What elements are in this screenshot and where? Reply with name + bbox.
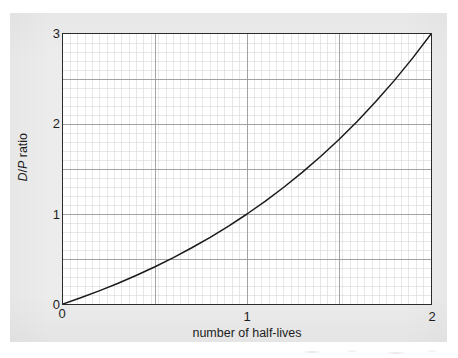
y-axis-title-p: P [16, 161, 30, 169]
plot-area [62, 33, 432, 305]
y-tick-label-1: 1 [38, 208, 60, 221]
figure-root: 3 2 1 0 0 1 2 number of half-lives D/P r… [0, 0, 458, 358]
scan-artifact-speckle [300, 348, 450, 356]
data-curve [63, 34, 431, 304]
y-axis-title-ratio: ratio [16, 133, 30, 161]
x-axis-title: number of half-lives [62, 327, 432, 340]
x-tick-label-1: 1 [235, 310, 259, 323]
y-axis-title: D/P ratio [17, 117, 30, 197]
y-tick-label-2: 2 [38, 117, 60, 130]
x-tick-label-2: 2 [420, 310, 444, 323]
y-axis-title-d: D [16, 173, 30, 182]
x-tick-label-0: 0 [50, 307, 74, 320]
y-tick-label-3: 3 [38, 27, 60, 40]
y-axis-title-slash: / [16, 169, 30, 172]
